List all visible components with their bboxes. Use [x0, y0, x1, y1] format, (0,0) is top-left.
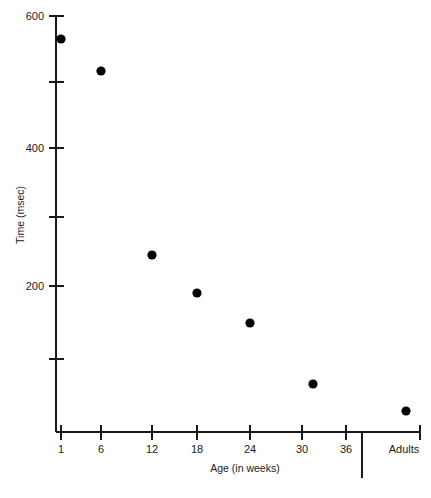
data-point — [96, 66, 105, 75]
data-point — [401, 406, 410, 415]
chart-page: 600 400 200 Time (msec) 1 6 12 18 24 30 … — [0, 0, 431, 498]
x-tick-label-6: 6 — [98, 443, 104, 455]
x-tick-label-adults: Adults — [389, 443, 420, 455]
data-point — [308, 379, 317, 388]
y-tick-label-200: 200 — [26, 280, 44, 292]
x-tick-label-1: 1 — [58, 443, 64, 455]
x-tick-label-12: 12 — [146, 443, 158, 455]
x-tick-label-18: 18 — [191, 443, 203, 455]
y-tick-label-400: 400 — [26, 142, 44, 154]
x-tick-label-36: 36 — [340, 443, 352, 455]
x-tick-label-30: 30 — [296, 443, 308, 455]
x-tick-label-24: 24 — [244, 443, 256, 455]
data-point — [192, 288, 201, 297]
scatter-plot: 600 400 200 Time (msec) 1 6 12 18 24 30 … — [0, 0, 431, 498]
y-axis-title: Time (msec) — [14, 186, 26, 244]
x-axis-title: Age (in weeks) — [210, 462, 279, 474]
data-point — [56, 34, 65, 43]
data-point — [147, 250, 156, 259]
y-tick-label-600: 600 — [26, 10, 44, 22]
data-point — [245, 318, 254, 327]
